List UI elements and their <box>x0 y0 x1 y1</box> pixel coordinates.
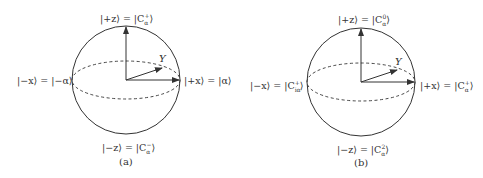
label-minus-x: |−x⟩ = |−α⟩ <box>17 75 73 87</box>
label-plus-x: |+x⟩ = |α⟩ <box>184 75 232 87</box>
label-y-axis: Y <box>159 53 166 64</box>
label-plus-x: |+x⟩ = |Cα+⟩ <box>420 77 474 96</box>
caption-b: (b) <box>354 157 368 169</box>
label-y-axis: Y <box>395 56 402 67</box>
label-minus-x: |−x⟩ = |Ciα+⟩ <box>250 77 303 96</box>
bloch-sphere-panel-b: |+z⟩ = |Cα0⟩ Y |−x⟩ = |Ciα+⟩ |+x⟩ = |Cα+… <box>240 0 483 178</box>
y-axis-arrow <box>126 68 162 80</box>
caption-a: (a) <box>119 156 133 168</box>
y-axis-arrow <box>361 70 397 82</box>
label-plus-z: |+z⟩ = |Cα0⟩ <box>338 11 390 30</box>
bloch-sphere-panel-a: |+z⟩ = |Cα+⟩ Y |−x⟩ = |−α⟩ |+x⟩ = |α⟩ |−… <box>0 0 240 178</box>
label-plus-z: |+z⟩ = |Cα+⟩ <box>100 10 153 29</box>
